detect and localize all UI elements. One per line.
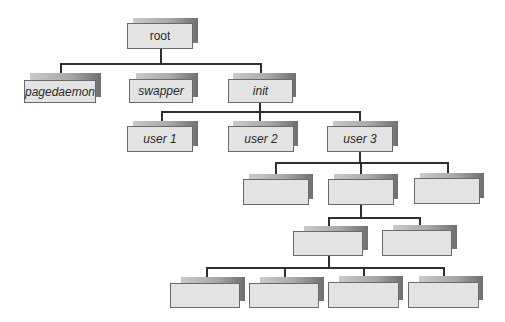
node-l3a-box bbox=[243, 179, 309, 205]
node-user-2-box: user 2 bbox=[228, 126, 294, 152]
node-label: root bbox=[150, 29, 171, 43]
node-l3c-box bbox=[414, 178, 480, 204]
process-tree-diagram: root pagedaemon swapper init user 1 user… bbox=[0, 0, 505, 322]
node-l5b-box bbox=[249, 283, 319, 308]
node-pagedaemon-box: pagedaemon bbox=[24, 80, 96, 103]
connector-root-bus bbox=[60, 63, 262, 65]
connector-user3-bus bbox=[275, 162, 449, 164]
node-init-box: init bbox=[228, 79, 293, 103]
node-swapper-box: swapper bbox=[129, 79, 193, 103]
connector-root-down bbox=[160, 48, 162, 64]
node-label: user 1 bbox=[143, 132, 176, 146]
node-user-1-box: user 1 bbox=[127, 126, 193, 152]
node-label: pagedaemon bbox=[25, 85, 95, 99]
connector-l3b-bus bbox=[328, 217, 421, 219]
node-l5c-box bbox=[328, 282, 399, 308]
node-user-3-box: user 3 bbox=[327, 126, 393, 152]
node-l5a-box bbox=[170, 283, 240, 308]
node-label: user 3 bbox=[343, 132, 376, 146]
connector-l4a-bus bbox=[206, 267, 445, 269]
node-l4b-box bbox=[382, 230, 452, 256]
node-root-box: root bbox=[127, 23, 193, 49]
node-label: user 2 bbox=[244, 132, 277, 146]
node-label: init bbox=[253, 84, 268, 98]
node-l4a-box bbox=[293, 231, 363, 256]
node-l3b-box bbox=[328, 179, 394, 205]
node-label: swapper bbox=[138, 84, 183, 98]
node-l5d-box bbox=[408, 282, 479, 308]
connector-init-bus bbox=[161, 111, 361, 113]
connector-l3b-down bbox=[360, 203, 362, 218]
